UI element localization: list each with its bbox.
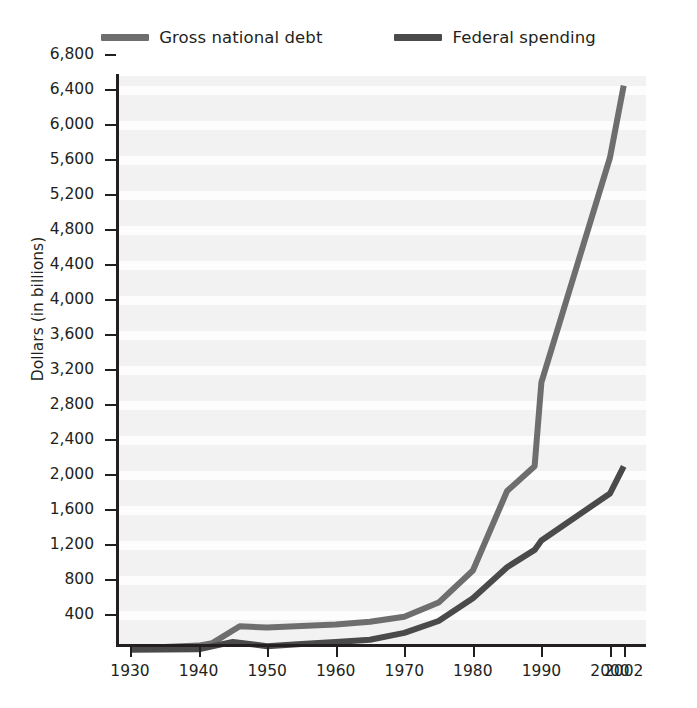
chart-figure: Gross national debt Federal spending Dol… bbox=[0, 0, 697, 708]
x-axis-tick-label: 1950 bbox=[237, 662, 297, 680]
legend-swatch-federal-spending bbox=[394, 34, 442, 41]
y-axis-tick-label: 400 bbox=[28, 605, 94, 623]
y-axis-tick-label: 4,800 bbox=[28, 220, 94, 238]
y-axis-tick bbox=[105, 124, 116, 126]
x-axis-tick bbox=[336, 645, 338, 657]
x-axis-tick bbox=[541, 645, 543, 657]
y-axis-tick bbox=[105, 159, 116, 161]
x-axis-line bbox=[116, 644, 646, 647]
x-axis-tick bbox=[130, 645, 132, 657]
legend-swatch-gross-national-debt bbox=[101, 34, 149, 41]
y-axis-tick-label: 1,200 bbox=[28, 535, 94, 553]
y-axis-tick-label: 4,400 bbox=[28, 255, 94, 273]
y-axis-tick bbox=[105, 509, 116, 511]
y-axis-tick-label: 2,800 bbox=[28, 395, 94, 413]
y-axis-tick bbox=[105, 229, 116, 231]
y-axis-tick bbox=[105, 334, 116, 336]
chart-legend: Gross national debt Federal spending bbox=[0, 22, 697, 52]
x-axis-tick bbox=[267, 645, 269, 657]
y-axis-line bbox=[116, 74, 119, 647]
y-axis-tick-label: 2,400 bbox=[28, 430, 94, 448]
y-axis-tick bbox=[105, 474, 116, 476]
y-axis-tick bbox=[105, 89, 116, 91]
y-axis-tick-label: 5,600 bbox=[28, 150, 94, 168]
y-axis-tick bbox=[105, 404, 116, 406]
y-axis-tick bbox=[105, 614, 116, 616]
y-axis-tick-label: 6,000 bbox=[28, 115, 94, 133]
x-axis-tick bbox=[473, 645, 475, 657]
series-line-gross-national-debt bbox=[130, 86, 624, 649]
legend-item-gross-national-debt: Gross national debt bbox=[101, 28, 322, 47]
y-axis-tick-label: 2,000 bbox=[28, 465, 94, 483]
x-axis-tick-label: 1930 bbox=[100, 662, 160, 680]
y-axis-tick bbox=[105, 544, 116, 546]
x-axis-tick-label: 2002 bbox=[594, 662, 654, 680]
y-axis-tick-label: 1,600 bbox=[28, 500, 94, 518]
x-axis-tick bbox=[610, 645, 612, 657]
x-axis-tick bbox=[404, 645, 406, 657]
y-axis-tick bbox=[105, 194, 116, 196]
x-axis-tick-label: 1980 bbox=[443, 662, 503, 680]
y-axis-tick-label: 800 bbox=[28, 570, 94, 588]
legend-label-gross-national-debt: Gross national debt bbox=[159, 28, 322, 47]
y-axis-tick bbox=[105, 439, 116, 441]
y-axis-tick-labels: 6,8006,4006,0005,6005,2004,8004,4004,000… bbox=[28, 0, 94, 708]
x-axis-tick-label: 1970 bbox=[374, 662, 434, 680]
y-axis-tick-label: 5,200 bbox=[28, 185, 94, 203]
x-axis-tick-label: 1960 bbox=[306, 662, 366, 680]
legend-item-federal-spending: Federal spending bbox=[394, 28, 595, 47]
y-axis-tick bbox=[105, 264, 116, 266]
x-axis-tick bbox=[199, 645, 201, 657]
x-axis-tick-label: 1990 bbox=[511, 662, 571, 680]
plot-area bbox=[119, 76, 646, 645]
y-axis-tick-label: 3,200 bbox=[28, 360, 94, 378]
y-axis-tick bbox=[105, 54, 116, 56]
legend-label-federal-spending: Federal spending bbox=[452, 28, 595, 47]
data-lines bbox=[119, 76, 646, 645]
x-axis-tick-label: 1940 bbox=[169, 662, 229, 680]
y-axis-tick-label: 6,400 bbox=[28, 80, 94, 98]
x-axis-tick bbox=[624, 645, 626, 657]
y-axis-tick-label: 6,800 bbox=[28, 45, 94, 63]
y-axis-tick bbox=[105, 579, 116, 581]
y-axis-tick-label: 4,000 bbox=[28, 290, 94, 308]
y-axis-tick bbox=[105, 299, 116, 301]
y-axis-tick-label: 3,600 bbox=[28, 325, 94, 343]
y-axis-tick bbox=[105, 369, 116, 371]
